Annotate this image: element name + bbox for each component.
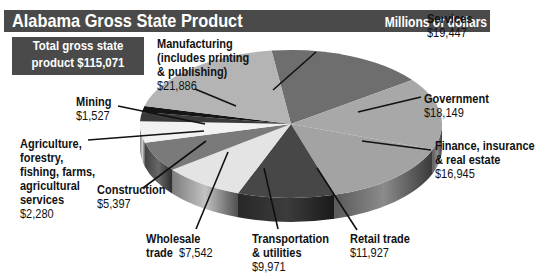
label-wholesale: Wholesale trade $7,542 [146,232,213,260]
slice-label-text: Mining [76,95,111,109]
label-manufacturing: Manufacturing (includes printing & publi… [157,37,249,93]
slice-label-text: (includes printing [157,51,249,65]
slice-label-text: agricultural [20,179,95,193]
slice-label-text: Services [427,12,472,26]
slice-label-text: & real estate [435,153,535,167]
slice-label-text: Government [424,92,489,106]
slice-value: $7,542 [179,246,213,260]
slice-value: $5,397 [97,197,165,211]
label-retail: Retail trade $11,927 [350,232,410,260]
slice-value: $9,971 [252,260,329,274]
slice-value: $1,527 [76,109,111,123]
slice-value: $19,447 [427,26,472,40]
slice-value: $2,280 [20,207,95,221]
label-transportation: Transportation & utilities $9,971 [252,232,329,274]
label-government: Government $18,149 [424,92,489,120]
slice-label-text: trade [146,246,173,260]
slice-label-text: fishing, farms, [20,165,95,179]
slice-label-text: & utilities [252,246,329,260]
slice-label-text: Retail trade [350,232,410,246]
label-agriculture: Agriculture, forestry, fishing, farms, a… [20,137,95,221]
label-services-text: Services $19,447 [427,12,472,40]
slice-label-text: Transportation [252,232,329,246]
slice-value: $21,886 [157,79,249,93]
slice-label-text: & publishing) [157,65,249,79]
slice-label-text: Manufacturing [157,37,249,51]
slice-label-text: Wholesale [146,232,213,246]
label-construction: Construction $5,397 [97,183,165,211]
slice-label-text: Agriculture, [20,137,95,151]
slice-label-text: Finance, insurance [435,139,535,153]
slice-value: $11,927 [350,246,410,260]
label-finance: Finance, insurance & real estate $16,945 [435,139,535,181]
slice-value: $16,945 [435,167,535,181]
label-mining: Mining $1,527 [76,95,111,123]
slice-label-text: Construction [97,183,165,197]
slice-label-text: forestry, [20,151,95,165]
slice-value: $18,149 [424,106,489,120]
slice-label-text: services [20,193,95,207]
